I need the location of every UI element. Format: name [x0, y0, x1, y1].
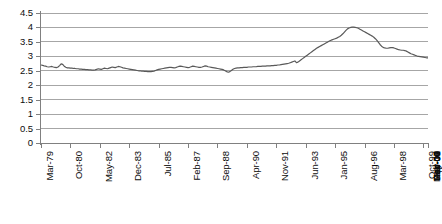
x-axis-tick-label: Jun-93: [310, 151, 320, 179]
x-axis-tick-label: Nov-91: [280, 151, 290, 181]
plot-svg: [41, 13, 428, 143]
y-axis-tick-label: 0: [28, 138, 33, 148]
x-axis-tick-label: Mar-98: [398, 151, 408, 181]
x-axis-tick: [365, 144, 366, 148]
data-series-group: [41, 27, 428, 72]
x-axis-tick: [276, 144, 277, 148]
x-axis-tick-label: Aug-96: [369, 151, 379, 181]
x-axis-tick-label: Jan-95: [339, 151, 349, 179]
x-axis-tick: [428, 144, 429, 148]
x-axis-tick-label: Feb-06: [432, 151, 442, 181]
x-axis-tick: [394, 144, 395, 148]
x-axis-tick-label: Oct-99: [427, 151, 437, 179]
x-axis-tick-label: Nov-10: [432, 151, 442, 181]
x-axis-tick-label: Feb-87: [192, 151, 202, 181]
x-axis-tick-label: Apr-09: [432, 151, 442, 179]
y-axis-tick-label: 1.5: [20, 95, 33, 105]
y-axis-tick-label: 2: [28, 80, 33, 90]
x-axis-tick-label: Sep-88: [221, 151, 231, 181]
x-axis-tick: [335, 144, 336, 148]
plot-area: [41, 13, 428, 143]
x-axis-tick: [159, 144, 160, 148]
x-axis-tick: [129, 144, 130, 148]
x-axis-tick: [306, 144, 307, 148]
x-axis-tick-label: Oct-80: [74, 151, 84, 179]
y-axis-tick-label: 3: [28, 51, 33, 61]
y-axis-tick-label: 4.5: [20, 8, 33, 18]
x-axis-tick: [217, 144, 218, 148]
x-axis-line: [40, 143, 429, 144]
x-axis-tick: [423, 144, 424, 148]
x-axis-tick-label: May-82: [104, 151, 114, 182]
x-axis-tick: [41, 144, 42, 148]
gridlines: [41, 13, 428, 143]
x-axis-tick: [188, 144, 189, 148]
x-axis-tick: [100, 144, 101, 148]
y-axis-tick-label: 1: [28, 109, 33, 119]
x-axis-tick-label: Jul-04: [432, 151, 442, 176]
x-axis-tick-label: Dec-02: [432, 151, 442, 181]
x-axis-tick-label: Jul-85: [163, 151, 173, 176]
x-axis-tick-label: Mar-79: [45, 151, 55, 181]
x-axis-tick-label: Apr-90: [251, 151, 261, 179]
y-axis-tick-label: 0.5: [20, 124, 33, 134]
x-axis-tick-label: Sep-07: [432, 151, 442, 181]
x-axis-tick-label: May-01: [432, 151, 442, 182]
y-axis-tick-label: 2.5: [20, 66, 33, 76]
x-axis-tick-label: Dec-83: [133, 151, 143, 181]
y-axis-labels: 00.511.522.533.544.5: [0, 0, 33, 224]
y-axis-tick-label: 3.5: [20, 37, 33, 47]
y-axis-tick-label: 4: [28, 22, 33, 32]
data-line: [41, 27, 428, 72]
x-axis-tick: [247, 144, 248, 148]
x-axis-tick: [70, 144, 71, 148]
